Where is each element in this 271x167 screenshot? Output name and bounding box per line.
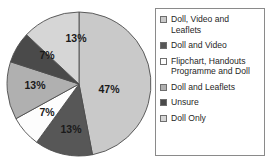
legend-swatch-flipchart-handouts <box>160 58 167 65</box>
legend-label-doll-video-leaflets: Doll, Video and Leaflets <box>171 14 261 35</box>
legend-item-unsure[interactable]: Unsure <box>160 97 261 108</box>
legend-item-doll-video-leaflets[interactable]: Doll, Video and Leaflets <box>160 14 261 35</box>
pie-slice-value-label: 47% <box>98 83 120 95</box>
pie-slice-value-label: 7% <box>39 49 55 61</box>
legend-item-flipchart-handouts[interactable]: Flipchart, Handouts Programme and Doll <box>160 56 261 77</box>
pie-chart-figure: 47%13%7%13%7%13% Doll, Video and Leaflet… <box>0 0 271 167</box>
legend-label-flipchart-handouts: Flipchart, Handouts Programme and Doll <box>171 56 261 77</box>
legend-swatch-doll-and-leaflets <box>160 84 167 91</box>
legend-label-doll-and-video: Doll and Video <box>171 40 227 51</box>
legend-swatch-unsure <box>160 99 167 106</box>
pie-svg: 47%13%7%13%7%13% <box>0 0 152 167</box>
legend-label-doll-only: Doll Only <box>171 113 206 124</box>
pie-slice-value-label: 13% <box>65 32 87 44</box>
pie-chart-plot-area: 47%13%7%13%7%13% <box>0 0 152 167</box>
chart-legend: Doll, Video and Leaflets Doll and Video … <box>155 8 265 156</box>
legend-label-doll-and-leaflets: Doll and Leaflets <box>171 82 235 93</box>
legend-item-doll-and-leaflets[interactable]: Doll and Leaflets <box>160 82 261 93</box>
legend-label-unsure: Unsure <box>171 97 199 108</box>
pie-slice-value-label: 13% <box>24 79 46 91</box>
legend-swatch-doll-video-leaflets <box>160 16 167 23</box>
legend-swatch-doll-only <box>160 115 167 122</box>
legend-item-doll-only[interactable]: Doll Only <box>160 113 261 124</box>
legend-item-doll-and-video[interactable]: Doll and Video <box>160 40 261 51</box>
pie-slice-value-label: 13% <box>60 123 82 135</box>
pie-slice-value-label: 7% <box>39 106 55 118</box>
legend-swatch-doll-and-video <box>160 42 167 49</box>
